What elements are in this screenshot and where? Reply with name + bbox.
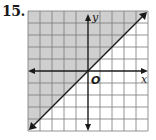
- y-axis-label: y: [91, 11, 99, 24]
- origin-label: O: [91, 74, 100, 87]
- x-axis-label: x: [141, 73, 148, 86]
- inequality-graph: y x O: [0, 0, 156, 140]
- y-axis-down-arrow-icon: [85, 124, 91, 131]
